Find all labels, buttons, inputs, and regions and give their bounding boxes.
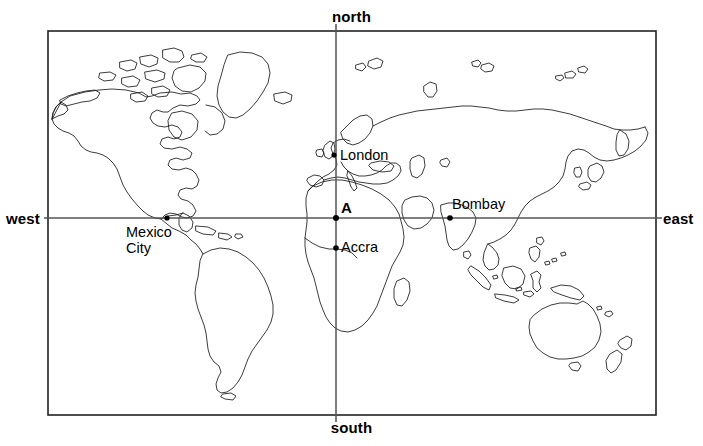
point-label-a: A: [341, 199, 352, 216]
marker-dot-origin-a[interactable]: [333, 215, 339, 221]
marker-dot-london[interactable]: [331, 152, 336, 157]
marker-dot-mexico-city[interactable]: [164, 215, 169, 220]
direction-label-west: west: [6, 210, 40, 227]
city-label-mexico-city-line2: City: [126, 240, 172, 256]
city-label-london: London: [340, 147, 388, 163]
map-frame-background: [48, 31, 656, 415]
direction-label-south: south: [0, 419, 703, 436]
direction-label-north: north: [0, 8, 703, 25]
city-label-accra: Accra: [341, 239, 378, 255]
city-label-mexico-city-line1: Mexico: [126, 224, 172, 240]
marker-dot-accra[interactable]: [333, 245, 339, 251]
city-label-bombay: Bombay: [452, 196, 505, 212]
world-map-canvas: [0, 0, 703, 446]
world-map-figure: north south west east A London Bombay Ac…: [0, 0, 703, 446]
marker-dot-bombay[interactable]: [447, 215, 453, 221]
city-label-mexico-city: Mexico City: [126, 224, 172, 256]
direction-label-east: east: [663, 210, 693, 227]
